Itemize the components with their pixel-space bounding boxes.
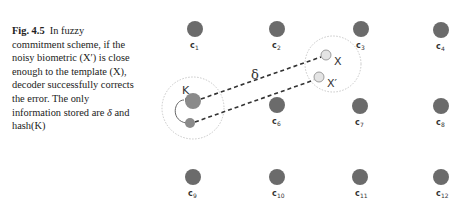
svg-text:8: 8 [441, 121, 445, 128]
codeword-c10: c10 [269, 169, 285, 199]
delta-line-key-to-template [201, 57, 321, 99]
codeword-c1: c1 [187, 21, 203, 51]
svg-text:6: 6 [277, 120, 281, 127]
key-label: K [182, 84, 190, 97]
codeword-c8: c8 [433, 98, 449, 128]
codeword-c11: c11 [352, 169, 368, 199]
correction-arrow [175, 100, 186, 123]
svg-text:2: 2 [277, 44, 281, 51]
template-point [321, 50, 331, 60]
codeword-c6: c6 [269, 97, 285, 127]
fuzzy-commitment-diagram: c1 c2 c3 c4 c6 c7 c8 c9 c10 c11 c12 K X … [0, 0, 465, 207]
delta-label: δ [251, 67, 259, 82]
svg-text:3: 3 [361, 44, 365, 51]
svg-text:12: 12 [441, 192, 449, 199]
codeword-c2: c2 [269, 21, 285, 51]
noisy-point [314, 72, 324, 82]
svg-text:11: 11 [360, 192, 368, 199]
codeword-c12: c12 [433, 169, 449, 199]
svg-text:1: 1 [195, 44, 199, 51]
decoded-point [185, 118, 195, 128]
svg-text:9: 9 [193, 192, 197, 199]
noisy-label: X′ [327, 77, 338, 90]
svg-text:10: 10 [277, 192, 285, 199]
codeword-c9: c9 [185, 169, 201, 199]
template-label: X [334, 55, 342, 68]
svg-text:7: 7 [360, 121, 364, 128]
delta-line-decoded-to-noisy [195, 80, 314, 122]
codeword-c3: c3 [353, 21, 369, 51]
svg-text:4: 4 [441, 45, 445, 52]
codeword-c7: c7 [352, 98, 368, 128]
codeword-c4: c4 [433, 22, 449, 52]
